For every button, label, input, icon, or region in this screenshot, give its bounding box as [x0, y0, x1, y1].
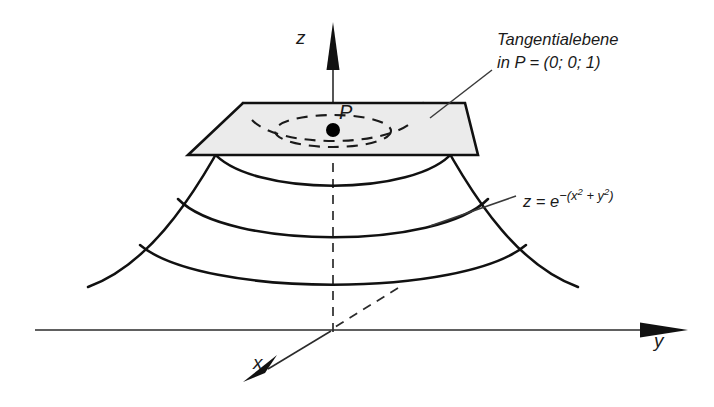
equation-base: e	[550, 192, 559, 210]
tangent-plane-annotation: Tangentialebene in P = (0; 0; 1)	[497, 28, 618, 75]
tangency-point-label: P	[339, 101, 352, 124]
equation-exponent: −(x2 + y2)	[559, 188, 613, 203]
x-axis-label: x	[253, 352, 263, 374]
equation-exponent-sign: −(	[559, 188, 571, 203]
tangent-plane-annotation-line-1: Tangentialebene	[497, 28, 618, 51]
surface-equation-annotation: z = e−(x2 + y2)	[523, 186, 614, 211]
tangent-plane-annotation-line-2: in P = (0; 0; 1)	[497, 51, 618, 74]
z-axis-arrowhead	[327, 22, 340, 70]
y-axis	[35, 323, 688, 338]
x-axis	[243, 288, 398, 382]
equation-plus: +	[586, 188, 594, 203]
x-axis-hidden-segment	[335, 288, 398, 327]
equation-z: z	[523, 192, 531, 210]
x-axis-line	[268, 331, 331, 369]
tangent-plane-figure: z y x P Tangentialebene in P = (0; 0; 1)…	[0, 0, 714, 407]
equation-close-paren: )	[609, 188, 613, 203]
y-axis-label: y	[654, 330, 664, 352]
z-axis-label: z	[296, 27, 306, 49]
tangency-point-marker	[326, 123, 340, 137]
surface-equation-leader-line	[430, 196, 516, 226]
y-axis-arrowhead	[640, 323, 688, 338]
